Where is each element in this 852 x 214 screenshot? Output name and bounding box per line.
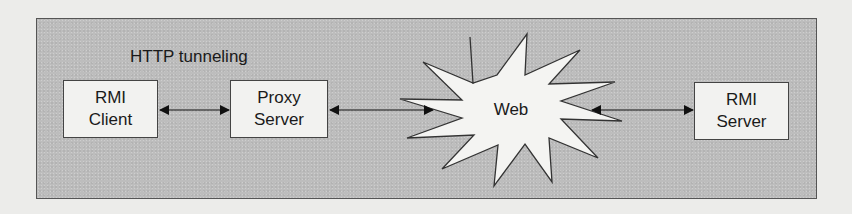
rmi-server-line2: Server — [716, 111, 766, 133]
proxy-server-node: Proxy Server — [230, 80, 328, 138]
proxy-server-line2: Server — [254, 109, 304, 131]
web-label: Web — [486, 99, 536, 121]
rmi-server-node: RMI Server — [694, 82, 789, 140]
rmi-server-line1: RMI — [726, 89, 757, 111]
diagram-canvas: HTTP tunneling RMI Client Proxy Server W… — [0, 0, 852, 214]
rmi-client-node: RMI Client — [63, 80, 158, 138]
rmi-client-line2: Client — [89, 109, 132, 131]
rmi-client-line1: RMI — [95, 87, 126, 109]
proxy-server-line1: Proxy — [257, 87, 300, 109]
